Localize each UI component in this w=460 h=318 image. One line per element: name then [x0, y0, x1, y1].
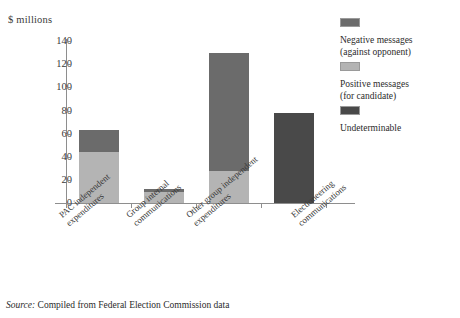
legend-swatch-negative-icon [340, 18, 360, 27]
source-text: Compiled from Federal Election Commissio… [38, 300, 230, 310]
legend-item-negative[interactable]: Negative messages (against opponent) [340, 16, 413, 58]
chart-legend: Negative messages (against opponent) Pos… [340, 16, 413, 136]
legend-label-negative: Negative messages (against opponent) [340, 34, 413, 58]
legend-label-undeterminable: Undeterminable [340, 122, 413, 134]
legend-swatch-undeterminable-icon [340, 106, 360, 115]
legend-item-positive[interactable]: Positive messages (for candidate) [340, 60, 413, 102]
legend-label-positive: Positive messages (for candidate) [340, 78, 413, 102]
legend-label-line-1: Positive messages [340, 78, 413, 90]
source-note: Source: Compiled from Federal Election C… [6, 300, 229, 310]
legend-item-undeterminable[interactable]: Undeterminable [340, 104, 413, 134]
legend-swatch-positive-icon [340, 62, 360, 71]
legend-label-line-2: (for candidate) [340, 90, 413, 102]
legend-label-line-1: Undeterminable [340, 122, 413, 134]
legend-label-line-1: Negative messages [340, 34, 413, 46]
source-label: Source: [6, 300, 35, 310]
bar-electioneering-communications[interactable] [274, 113, 314, 203]
legend-label-line-2: (against opponent) [340, 46, 413, 58]
bar-segment-negative [209, 53, 249, 171]
bar-segment-undeterminable [274, 113, 314, 203]
bar-segment-negative [79, 130, 119, 152]
